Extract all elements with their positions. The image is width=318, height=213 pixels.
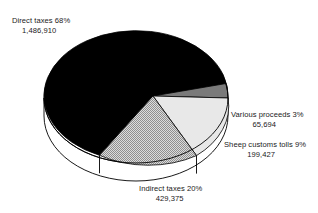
pie-label-sheep-customs-tolls-value: 199,427: [224, 150, 306, 160]
pie-label-indirect-taxes-value: 429,375: [139, 194, 202, 204]
pie-label-various-proceeds-value: 65,694: [231, 120, 304, 130]
pie-label-various-proceeds: Various proceeds 3% 65,694: [231, 110, 304, 129]
pie-label-sheep-customs-tolls-title: Sheep customs tolls 9%: [224, 140, 306, 150]
pie-label-indirect-taxes-title: Indirect taxes 20%: [139, 184, 202, 194]
pie-label-direct-taxes: Direct taxes 68% 1,486,910: [12, 16, 70, 35]
pie-label-direct-taxes-title: Direct taxes 68%: [12, 16, 70, 26]
pie-chart-figure: Direct taxes 68% 1,486,910 Various proce…: [0, 0, 318, 213]
pie-label-direct-taxes-value: 1,486,910: [12, 26, 70, 36]
pie-label-various-proceeds-title: Various proceeds 3%: [231, 110, 304, 120]
pie-label-sheep-customs-tolls: Sheep customs tolls 9% 199,427: [224, 140, 306, 159]
pie-label-indirect-taxes: Indirect taxes 20% 429,375: [139, 184, 202, 203]
